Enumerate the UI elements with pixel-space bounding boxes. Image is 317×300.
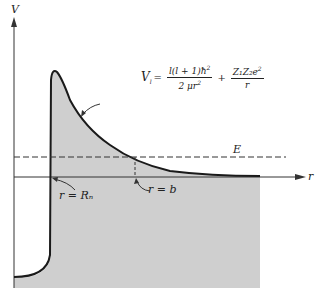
formula-centrifugal-term: l(l + 1)ħ2 2 μr2 [167,64,212,91]
formula-equals: = [154,72,162,83]
potential-diagram [0,0,317,300]
energy-label: E [233,143,241,156]
formula-lhs: Vl [141,70,152,85]
potential-formula: Vl = l(l + 1)ħ2 2 μr2 + Z₁Z₂e2 r [141,64,267,91]
formula-leader-arrow [83,104,100,114]
nuclear-radius-label: r = Rₙ [59,189,93,202]
v-axis-label: V [11,3,19,16]
turning-point-label: r = b [148,183,177,196]
r-axis-label: r [308,170,313,183]
formula-plus: + [217,72,225,83]
formula-coulomb-term: Z₁Z₂e2 r [231,65,264,90]
well-interior [15,177,50,277]
v-axis-arrow-icon [11,17,17,27]
r-axis-arrow-icon [295,174,306,180]
